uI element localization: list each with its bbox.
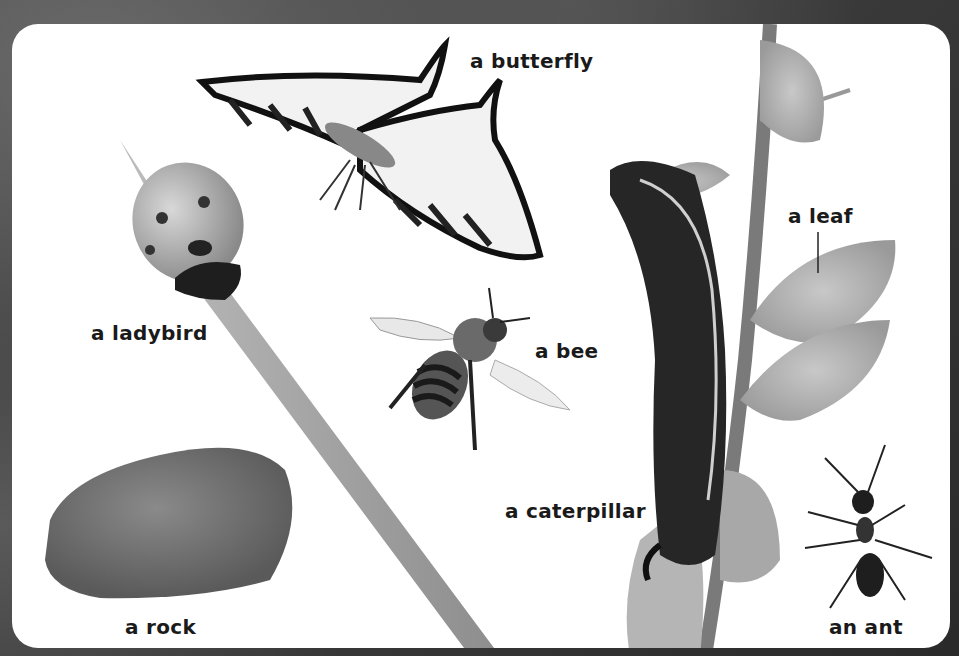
label-ladybird: a ladybird [91, 321, 208, 345]
rock-image [45, 448, 292, 598]
label-rock: a rock [125, 615, 196, 639]
picture-card: a butterfly a ladybird a bee a leaf a ca… [12, 24, 950, 648]
butterfly-image [202, 45, 540, 257]
label-ant: an ant [829, 615, 903, 639]
label-caterpillar: a caterpillar [505, 499, 646, 523]
bee-image [370, 288, 570, 450]
label-leaf: a leaf [788, 204, 853, 228]
label-bee: a bee [535, 339, 598, 363]
ant-image [805, 445, 932, 608]
label-butterfly: a butterfly [470, 49, 593, 73]
